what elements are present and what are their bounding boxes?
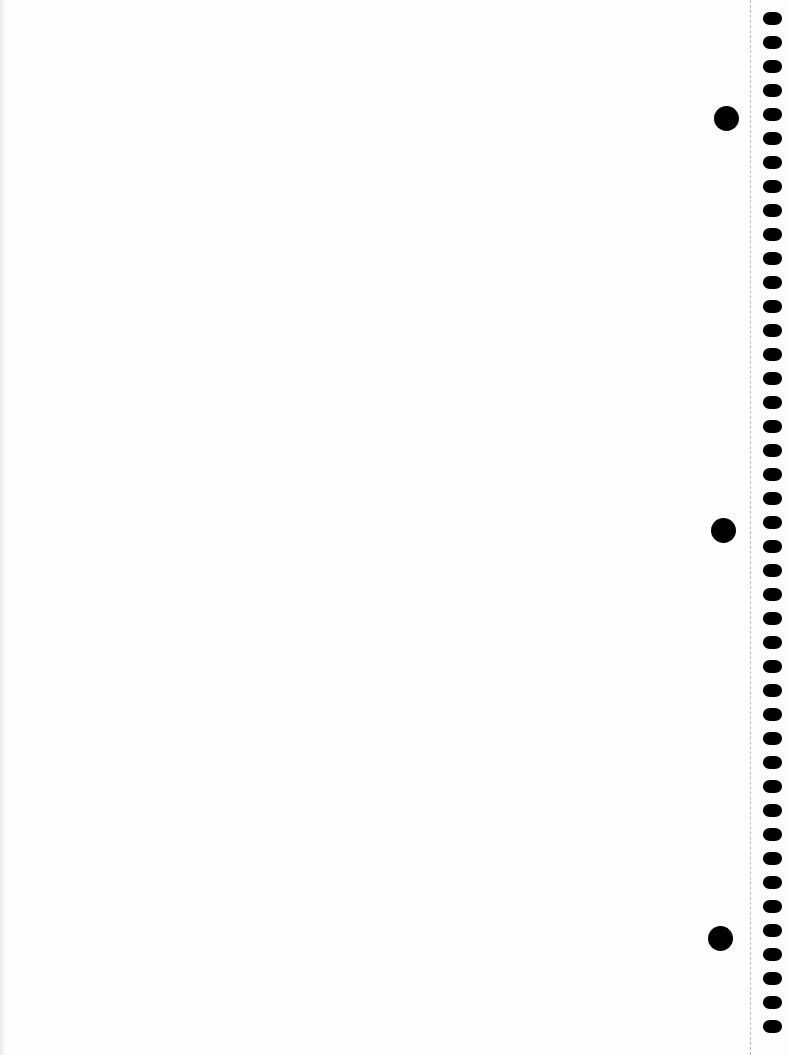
spiral-hole	[763, 372, 782, 385]
spiral-hole	[763, 780, 782, 793]
spiral-hole	[763, 828, 782, 841]
notebook-page	[0, 0, 789, 1055]
spiral-hole	[763, 492, 782, 505]
spiral-hole	[763, 276, 782, 289]
spiral-hole	[763, 420, 782, 433]
spiral-hole	[763, 516, 782, 529]
punch-hole	[711, 518, 736, 543]
punch-hole	[708, 926, 733, 951]
spiral-hole	[763, 348, 782, 361]
spiral-hole	[763, 732, 782, 745]
spiral-hole	[763, 996, 782, 1009]
spiral-hole	[763, 804, 782, 817]
spiral-hole	[763, 972, 782, 985]
spiral-hole	[763, 924, 782, 937]
spiral-hole	[763, 132, 782, 145]
spiral-hole	[763, 396, 782, 409]
spiral-hole	[763, 156, 782, 169]
spiral-binding-holes	[0, 0, 789, 1055]
spiral-hole	[763, 756, 782, 769]
spiral-hole	[763, 876, 782, 889]
spiral-hole	[763, 324, 782, 337]
spiral-hole	[763, 84, 782, 97]
spiral-hole	[763, 180, 782, 193]
spiral-hole	[763, 540, 782, 553]
spiral-hole	[763, 444, 782, 457]
spiral-hole	[763, 684, 782, 697]
spiral-hole	[763, 852, 782, 865]
spiral-hole	[763, 108, 782, 121]
spiral-hole	[763, 36, 782, 49]
spiral-hole	[763, 708, 782, 721]
spiral-hole	[763, 948, 782, 961]
punch-hole	[714, 106, 739, 131]
spiral-hole	[763, 60, 782, 73]
spiral-hole	[763, 300, 782, 313]
spiral-hole	[763, 252, 782, 265]
spiral-hole	[763, 900, 782, 913]
spiral-hole	[763, 468, 782, 481]
spiral-hole	[763, 12, 782, 25]
spiral-hole	[763, 228, 782, 241]
spiral-hole	[763, 564, 782, 577]
spiral-hole	[763, 660, 782, 673]
spiral-hole	[763, 204, 782, 217]
spiral-hole	[763, 1020, 782, 1033]
spiral-hole	[763, 636, 782, 649]
spiral-hole	[763, 588, 782, 601]
spiral-hole	[763, 612, 782, 625]
